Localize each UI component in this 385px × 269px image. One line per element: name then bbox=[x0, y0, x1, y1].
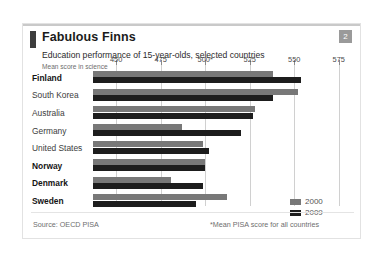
x-axis-tick-label: 450 bbox=[110, 55, 122, 64]
legend-swatch-icon-2000 bbox=[290, 199, 301, 205]
source-text: Source: OECD PISA bbox=[33, 220, 99, 229]
bar-finland-2000 bbox=[93, 71, 273, 77]
chart-card: Fabulous Finns 2 Education performance o… bbox=[22, 23, 361, 239]
bar-south-korea-2000 bbox=[93, 89, 298, 95]
bar-norway-2000 bbox=[93, 159, 205, 165]
bar-south-korea-2009 bbox=[93, 95, 273, 101]
chart-legend: 2000 2009 bbox=[290, 196, 323, 218]
gridline bbox=[339, 65, 340, 206]
footnote-text: *Mean PISA score for all countries bbox=[210, 220, 319, 229]
legend-item-2000: 2000 bbox=[290, 196, 323, 207]
category-label-finland: Finland bbox=[32, 73, 62, 83]
category-label-south-korea: South Korea bbox=[32, 90, 79, 100]
category-label-australia: Australia bbox=[32, 108, 65, 118]
category-label-norway: Norway bbox=[32, 161, 62, 171]
bar-norway-2009 bbox=[93, 165, 205, 171]
bar-germany-2009 bbox=[93, 130, 241, 136]
screenshot-root: Fabulous Finns 2 Education performance o… bbox=[0, 0, 385, 269]
legend-label-2000: 2000 bbox=[305, 197, 323, 206]
bar-denmark-2009 bbox=[93, 183, 203, 189]
bar-germany-2000 bbox=[93, 124, 182, 130]
footer-divider bbox=[31, 212, 354, 213]
bar-denmark-2000 bbox=[93, 177, 171, 183]
x-axis-tick-label: 550 bbox=[288, 55, 300, 64]
x-axis-tick-label: 475 bbox=[154, 55, 166, 64]
bar-united-states-2009 bbox=[93, 148, 209, 154]
x-axis-tick-label: 500* bbox=[198, 55, 213, 64]
category-label-germany: Germany bbox=[32, 126, 66, 136]
bar-sweden-2000 bbox=[93, 194, 227, 200]
category-label-denmark: Denmark bbox=[32, 178, 68, 188]
gridline bbox=[294, 65, 295, 206]
bar-finland-2009 bbox=[93, 77, 301, 83]
category-label-united-states: United States bbox=[32, 143, 82, 153]
x-axis-tick-label: 575 bbox=[333, 55, 345, 64]
bar-sweden-2009 bbox=[93, 201, 196, 207]
bar-united-states-2000 bbox=[93, 141, 203, 147]
bar-australia-2009 bbox=[93, 113, 253, 119]
bar-australia-2000 bbox=[93, 106, 255, 112]
gridline bbox=[250, 65, 251, 206]
x-axis-tick-label: 525 bbox=[244, 55, 256, 64]
category-label-sweden: Sweden bbox=[32, 196, 64, 206]
